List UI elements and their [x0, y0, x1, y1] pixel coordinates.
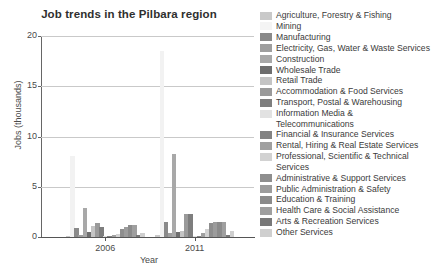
- y-tick-label: 10: [17, 132, 37, 141]
- legend-item[interactable]: Professional, Scientific & Technical Ser…: [260, 151, 434, 172]
- x-axis-ticks: 20062011: [41, 238, 255, 258]
- legend-swatch-icon: [260, 185, 272, 193]
- legend-item[interactable]: Public Administration & Safety: [260, 184, 434, 194]
- legend-swatch-icon: [260, 88, 272, 96]
- legend-item[interactable]: Mining: [260, 21, 434, 31]
- legend-item[interactable]: Wholesale Trade: [260, 65, 434, 75]
- legend-swatch-icon: [260, 99, 272, 107]
- legend-item[interactable]: Construction: [260, 54, 434, 64]
- legend-item[interactable]: Other Services: [260, 227, 434, 237]
- chart-title: Job trends in the Pilbara region: [0, 8, 258, 20]
- legend-item[interactable]: Financial & Insurance Services: [260, 129, 434, 139]
- legend-swatch-icon: [260, 66, 272, 74]
- legend-item-label: Information Media & Telecommunications: [276, 108, 354, 129]
- legend-item-label: Manufacturing: [276, 32, 330, 42]
- legend-item-label: Transport, Postal & Warehousing: [276, 97, 402, 107]
- chart-legend: Agriculture, Forestry & FishingMiningMan…: [260, 10, 434, 238]
- bar: [70, 156, 75, 237]
- x-tick-mark: [105, 238, 106, 241]
- legend-item[interactable]: Rental, Hiring & Real Estate Services: [260, 140, 434, 150]
- legend-item-label: Health Care & Social Assistance: [276, 205, 399, 215]
- legend-swatch-icon: [260, 44, 272, 52]
- legend-item-label: Construction: [276, 54, 324, 64]
- legend-item[interactable]: Electricity, Gas, Water & Waste Services: [260, 43, 434, 53]
- legend-item-label: Professional, Scientific & Technical Ser…: [276, 151, 409, 172]
- chart-page: Job trends in the Pilbara region Jobs (t…: [0, 0, 434, 273]
- legend-item[interactable]: Education & Training: [260, 194, 434, 204]
- x-tick-label: 2011: [175, 243, 215, 253]
- legend-swatch-icon: [260, 153, 272, 161]
- legend-item-label: Wholesale Trade: [276, 65, 341, 75]
- y-tick-label: 20: [17, 31, 37, 40]
- legend-item-label: Education & Training: [276, 194, 355, 204]
- bar: [230, 231, 235, 237]
- legend-item-label: Accommodation & Food Services: [276, 86, 403, 96]
- legend-item-label: Rental, Hiring & Real Estate Services: [276, 140, 418, 150]
- legend-item[interactable]: Retail Trade: [260, 75, 434, 85]
- y-tick-label: 5: [17, 182, 37, 191]
- legend-item[interactable]: Manufacturing: [260, 32, 434, 42]
- legend-swatch-icon: [260, 77, 272, 85]
- y-tick-label: 15: [17, 81, 37, 90]
- legend-item-label: Arts & Recreation Services: [276, 216, 379, 226]
- legend-item[interactable]: Administrative & Support Services: [260, 173, 434, 183]
- legend-item[interactable]: Accommodation & Food Services: [260, 86, 434, 96]
- legend-item[interactable]: Health Care & Social Assistance: [260, 205, 434, 215]
- legend-item-label: Retail Trade: [276, 75, 322, 85]
- legend-item-label: Administrative & Support Services: [276, 173, 406, 183]
- legend-item[interactable]: Arts & Recreation Services: [260, 216, 434, 226]
- bar-group: [41, 36, 254, 237]
- legend-item-label: Other Services: [276, 227, 333, 237]
- bar: [140, 233, 145, 237]
- legend-swatch-icon: [260, 110, 272, 118]
- legend-item-label: Financial & Insurance Services: [276, 129, 394, 139]
- legend-item-label: Mining: [276, 21, 301, 31]
- legend-item-label: Electricity, Gas, Water & Waste Services: [276, 43, 430, 53]
- y-tick-label: 0: [17, 232, 37, 241]
- bar: [160, 51, 165, 237]
- y-axis-label: Jobs (thousands): [13, 55, 23, 175]
- legend-item-label: Agriculture, Forestry & Fishing: [276, 10, 392, 20]
- plot-area: [41, 36, 254, 237]
- legend-swatch-icon: [260, 218, 272, 226]
- bar: [172, 154, 177, 237]
- legend-swatch-icon: [260, 174, 272, 182]
- legend-item[interactable]: Information Media & Telecommunications: [260, 108, 434, 129]
- legend-swatch-icon: [260, 207, 272, 215]
- legend-swatch-icon: [260, 22, 272, 30]
- legend-swatch-icon: [260, 12, 272, 20]
- bar: [188, 214, 193, 237]
- legend-item-label: Public Administration & Safety: [276, 184, 391, 194]
- legend-item[interactable]: Transport, Postal & Warehousing: [260, 97, 434, 107]
- legend-swatch-icon: [260, 55, 272, 63]
- legend-swatch-icon: [260, 131, 272, 139]
- legend-swatch-icon: [260, 196, 272, 204]
- legend-swatch-icon: [260, 142, 272, 150]
- legend-swatch-icon: [260, 229, 272, 237]
- x-tick-mark: [195, 238, 196, 241]
- legend-item[interactable]: Agriculture, Forestry & Fishing: [260, 10, 434, 20]
- legend-swatch-icon: [260, 33, 272, 41]
- x-tick-label: 2006: [85, 243, 125, 253]
